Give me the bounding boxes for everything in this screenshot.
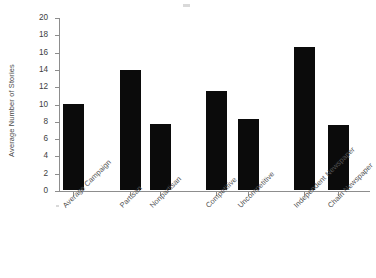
y-tick-16: 16	[55, 53, 59, 54]
scan-speck-icon	[56, 205, 59, 207]
x-tick-bar-partisan	[130, 192, 131, 196]
bar-average-campaign	[63, 104, 84, 190]
y-tick-10: 10	[55, 105, 59, 106]
y-tick-label-18: 18	[39, 30, 48, 39]
bar-chart-figure: Average Number of Stories 20181614121086…	[0, 0, 376, 278]
x-tick-bar-independent-newspaper	[304, 192, 305, 196]
y-tick-label-14: 14	[39, 65, 48, 74]
y-tick-label-20: 20	[39, 13, 48, 22]
bar-chain-newspaper	[328, 125, 349, 190]
y-tick-label-6: 6	[43, 134, 48, 143]
y-tick-14: 14	[55, 70, 59, 71]
y-axis-title: Average Number of Stories	[4, 44, 18, 176]
plot-area: 20181614121086420	[59, 18, 370, 191]
bar-independent-newspaper	[294, 47, 315, 190]
bar-uncompetitive	[238, 119, 259, 190]
bar-nonpartisan	[150, 124, 171, 190]
y-tick-8: 8	[55, 122, 59, 123]
y-tick-18: 18	[55, 35, 59, 36]
y-tick-label-16: 16	[39, 48, 48, 57]
y-tick-20: 20	[55, 18, 59, 19]
y-axis-line	[59, 18, 60, 192]
x-axis-line	[59, 191, 370, 192]
x-tick-bar-chain-newspaper	[338, 192, 339, 196]
y-tick-6: 6	[55, 139, 59, 140]
y-tick-2: 2	[55, 174, 59, 175]
x-tick-bar-nonpartisan	[160, 192, 161, 196]
bar-partisan	[120, 70, 141, 190]
bar-competitive	[206, 91, 227, 190]
y-tick-label-10: 10	[39, 100, 48, 109]
y-tick-label-8: 8	[43, 117, 48, 126]
y-tick-label-12: 12	[39, 82, 48, 91]
y-tick-label-4: 4	[43, 151, 48, 160]
x-tick-bar-average-campaign	[73, 192, 74, 196]
y-tick-4: 4	[55, 156, 59, 157]
y-tick-label-2: 2	[43, 169, 48, 178]
y-tick-0: 0	[55, 191, 59, 192]
y-axis-title-text: Average Number of Stories	[7, 64, 16, 157]
scan-speck-icon	[183, 4, 190, 7]
x-tick-bar-uncompetitive	[248, 192, 249, 196]
y-tick-12: 12	[55, 87, 59, 88]
x-tick-bar-competitive	[216, 192, 217, 196]
y-tick-label-0: 0	[43, 186, 48, 195]
